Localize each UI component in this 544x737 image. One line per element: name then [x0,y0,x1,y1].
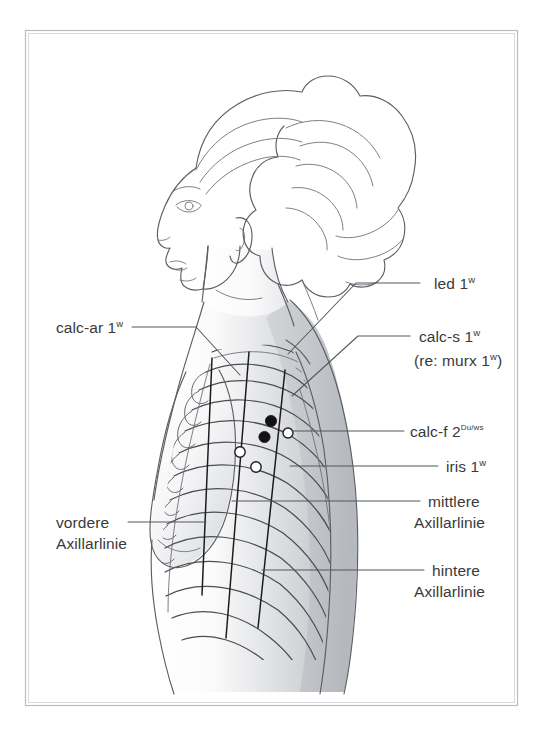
body-illustration [149,76,415,694]
eye-lower-lid [177,206,201,212]
eye-upper-lid [176,201,201,206]
label-led: led 1w [434,274,475,292]
chin-crease [180,278,196,281]
thorax-diagram-svg: led 1w calc-s 1w (re: murx 1w) calc-f 2D… [0,0,544,737]
label-calc-s: calc-s 1w [419,327,480,345]
label-hintere-axillarlinie-line2: Axillarlinie [414,583,485,600]
label-calc-ar: calc-ar 1w [56,318,123,336]
label-calc-s-note: (re: murx 1w) [414,351,502,369]
hair-strand-2 [200,138,302,182]
label-mittlere-axillarlinie-line1: mittlere [428,493,480,510]
face-profile-contour [157,168,208,290]
label-iris: iris 1w [446,457,486,475]
lips-upper [170,261,186,264]
anatomical-figure-panel: led 1w calc-s 1w (re: murx 1w) calc-f 2D… [0,0,544,737]
hair-strand-9 [336,210,398,238]
eye-iris [185,202,193,210]
label-hintere-axillarlinie-line1: hintere [432,562,480,579]
point-calc-ar-open[interactable] [235,447,245,457]
label-calc-f: calc-f 2Du/ws [410,423,484,440]
point-led-open[interactable] [283,428,293,438]
point-calc-f-filled[interactable] [259,431,270,442]
hair-strand-6 [296,164,357,208]
point-calc-s-filled[interactable] [265,415,276,426]
point-iris-open[interactable] [251,462,261,472]
label-vordere-axillarlinie-line2: Axillarlinie [56,535,127,552]
hair-strand-8 [286,208,327,250]
nose-detail [158,237,170,240]
label-vordere-axillarlinie-line1: vordere [56,514,109,531]
hair-strand-10 [338,238,404,260]
label-mittlere-axillarlinie-line2: Axillarlinie [414,514,485,531]
hair-strand-4 [286,121,380,158]
